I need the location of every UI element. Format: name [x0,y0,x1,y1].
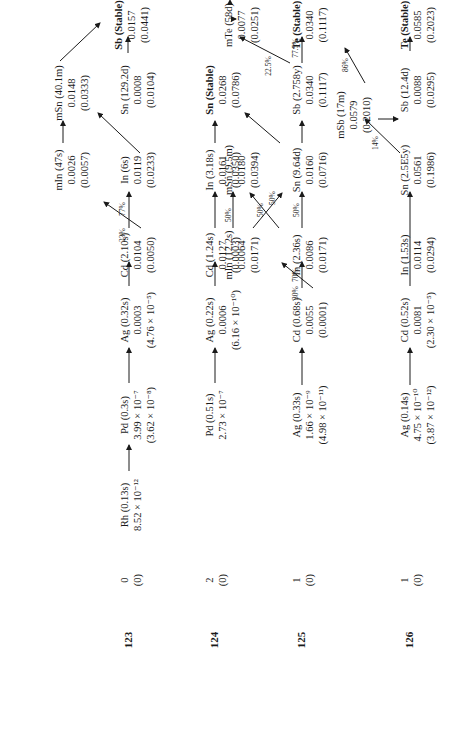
side-values-123: 0 (0) [118,574,144,586]
isotope-name: Sn (Stable) [203,65,216,114]
decay-chain-diagram: 123 0 (0) Rh (0.13s) 8.52 × 10⁻¹² Pd (0.… [0,0,473,733]
yield-value: 0.0055 [303,298,316,342]
yield-value-alt: (0.0251) [248,3,261,47]
yield-value-alt: (3.87 × 10⁻¹²) [424,386,437,445]
node-msn125: mSn (9.5m) 0.0180 (0.0394) [222,145,261,195]
yield-value-alt: (0.0295) [424,68,437,112]
isotope-name: Ag (0.33s) [290,386,303,445]
branch-label: 50% [268,191,277,205]
node-ag126: Ag (0.14s) 4.75 × 10⁻¹⁰ (3.87 × 10⁻¹²) [398,386,437,445]
node-rh123: Rh (0.13s) 8.52 × 10⁻¹² [118,479,144,531]
yield-value: 0.0160 [303,148,316,192]
node-sn126: Sn (2.5E5y) 0.0561 (0.1986) [398,145,437,196]
mass-number-124: 124 [208,632,220,649]
branch-label: 23% [118,228,127,242]
isotope-name: Pd (0.51s) [203,390,216,439]
isotope-name: Sn (2.5E5y) [398,145,411,196]
branch-label: 50% [292,203,301,217]
node-sn124: Sn (Stable) 0.0268 (0.0786) [203,65,242,114]
node-in123: In (6s) 0.0119 (0.0233) [118,152,157,188]
isotope-name: In (6s) [118,152,131,188]
yield-value-alt: (0.2023) [424,1,437,49]
yield-value: 8.52 × 10⁻¹² [131,479,144,531]
isotope-name: mIn (12.2s) [222,231,235,280]
yield-value-alt: (0.0394) [248,145,261,195]
isotope-name: Rh (0.13s) [118,479,131,531]
branch-label: 70% [291,268,300,282]
yield-value-alt: (0.0233) [144,152,157,188]
isotope-name: Sb (Stable) [112,0,125,49]
yield-value: 0.0077 [235,3,248,47]
yield-value: 0.0088 [411,68,424,112]
isotope-name: Cd (0.52s) [398,292,411,348]
branch-label: 30% [291,286,300,300]
isotope-name: In (1.53s) [398,235,411,276]
isotope-name: mSn (40.1m) [52,65,65,120]
yield-value: 2.73 × 10⁻⁷ [216,390,229,439]
node-sb123: Sb (Stable) 0.0157 (0.0441) [112,0,151,49]
isotope-name: Cd (0.68s) [290,298,303,342]
node-ag125: Ag (0.33s) 1.66 × 10⁻⁹ (4.98 × 10⁻¹¹) [290,386,329,445]
node-sn125: Sn (9.64d) 0.0160 (0.0716) [290,148,329,192]
node-sb125: Sb (2.758y) 0.0340 (0.1117) [290,65,329,115]
yield-value: 0.0340 [303,65,316,115]
branch-label: 77.5% [291,38,300,57]
yield-value-alt: (0.0171) [316,235,329,276]
yield-value: 0.0104 [131,233,144,277]
yield-value: 0.0585 [411,1,424,49]
yield-value: 0.0119 [131,152,144,188]
side-value: 1 [398,574,411,586]
isotope-name: In (3.18s) [203,150,216,191]
isotope-name: Ag (0.14s) [398,386,411,445]
yield-value-alt: (0.0104) [144,65,157,115]
isotope-name: mIn (47s) [52,149,65,190]
yield-value: 0.0003 [131,292,144,348]
yield-value-alt: (2.30 × 10⁻⁵) [424,292,437,348]
node-sb126: Sb (12.4d) 0.0088 (0.0295) [398,68,437,112]
side-value: 1 [290,574,303,586]
node-in126: In (1.53s) 0.0114 (0.0294) [398,235,437,276]
yield-value-alt: (6.16 × 10⁻¹⁰) [229,290,242,350]
mass-number-123: 123 [122,632,134,649]
yield-value-alt: (0.0057) [78,149,91,190]
branch-label: 22.5% [264,56,273,75]
node-te126: Te (Stable) 0.0585 (0.2023) [398,1,437,49]
yield-value-alt: (0.2010) [360,91,373,139]
branch-label: 50% [224,208,233,222]
yield-value-alt: (3.62 × 10⁻⁸) [144,387,157,443]
side-value: 0 [118,574,131,586]
yield-value-alt: (0.0050) [144,233,157,277]
node-cd126: Cd (0.52s) 0.0081 (2.30 × 10⁻⁵) [398,292,437,348]
mass-number-126: 126 [403,632,415,649]
yield-value-alt: (0.0333) [78,65,91,120]
node-msb126: mSb (17m) 0.0579 (0.2010) [334,91,373,139]
yield-value: 0.0114 [411,235,424,276]
yield-value: 0.0008 [131,65,144,115]
yield-value: 1.66 × 10⁻⁹ [303,386,316,445]
side-value: (0) [303,574,316,586]
branch-label: 50% [256,203,265,217]
yield-value: 0.0268 [216,65,229,114]
yield-value-alt: (4.76 × 10⁻⁵) [144,292,157,348]
yield-value-alt: (0.1117) [316,1,329,49]
branch-label: 14% [371,136,380,150]
node-ag124: Ag (0.22s) 0.0006 (6.16 × 10⁻¹⁰) [203,290,242,350]
yield-value: 0.0006 [216,290,229,350]
side-value: 2 [203,574,216,586]
yield-value: 0.0026 [65,149,78,190]
node-min123: mIn (47s) 0.0026 (0.0057) [52,149,91,190]
yield-value: 0.0148 [65,65,78,120]
yield-value-alt: (0.0441) [138,0,151,49]
isotope-name: Sb (2.758y) [290,65,303,115]
yield-value-alt: (0.0001) [316,298,329,342]
isotope-name: mSn (9.5m) [222,145,235,195]
side-values-125: 1 (0) [290,574,316,586]
isotope-name: Ag (0.32s) [118,292,131,348]
node-ag123: Ag (0.32s) 0.0003 (4.76 × 10⁻⁵) [118,292,157,348]
yield-value-alt: (0.0786) [229,65,242,114]
yield-value-alt: (0.1986) [424,145,437,196]
side-value: (0) [411,574,424,586]
yield-value: 0.0180 [235,145,248,195]
yield-value: 0.0340 [303,1,316,49]
isotope-name: Sn (9.64d) [290,148,303,192]
